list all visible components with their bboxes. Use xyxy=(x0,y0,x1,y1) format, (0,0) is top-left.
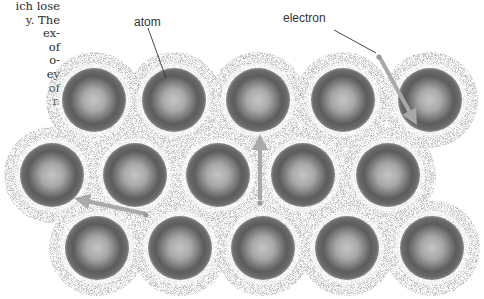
atom xyxy=(103,143,167,207)
atom xyxy=(398,68,462,132)
atom xyxy=(356,143,420,207)
atom xyxy=(271,143,335,207)
atom xyxy=(186,143,250,207)
metallic-bonding-diagram xyxy=(0,0,484,299)
atom xyxy=(20,143,84,207)
atom xyxy=(62,68,126,132)
atom xyxy=(311,68,375,132)
atom xyxy=(400,216,464,280)
atom xyxy=(142,68,206,132)
electron-leader-line xyxy=(334,30,376,53)
atom xyxy=(148,216,212,280)
atom xyxy=(315,216,379,280)
atom-label: atom xyxy=(134,15,161,29)
electron-dot xyxy=(257,200,262,205)
atom xyxy=(226,68,290,132)
electron-dot xyxy=(143,212,148,217)
electron-label: electron xyxy=(283,11,326,25)
electron-dot xyxy=(376,54,381,59)
atom xyxy=(65,216,129,280)
atom xyxy=(231,216,295,280)
